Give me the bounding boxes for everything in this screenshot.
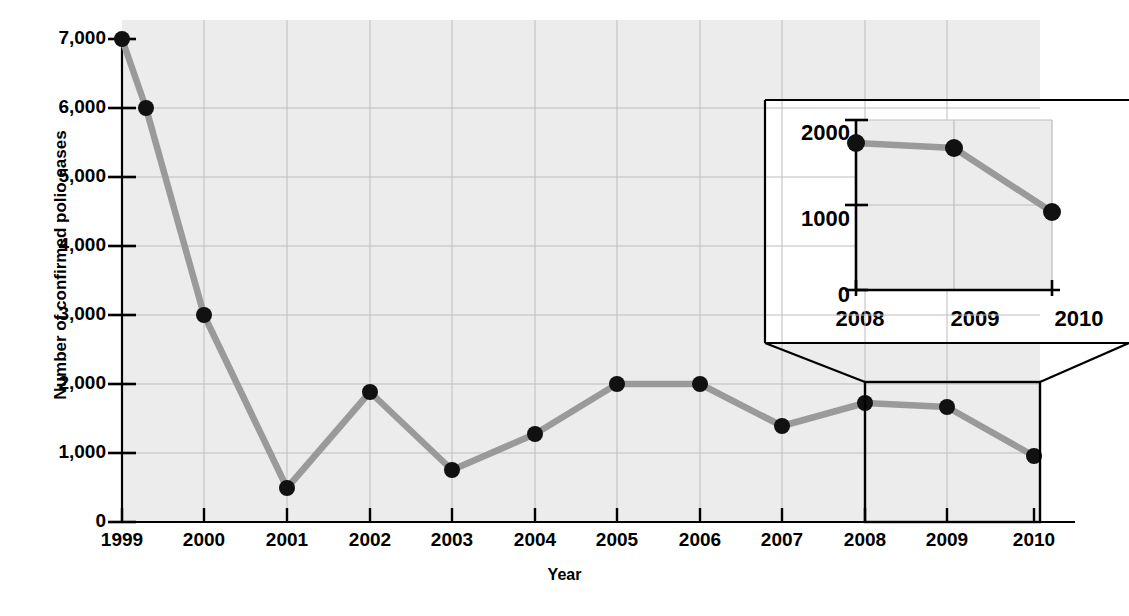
chart-figure: 7,000 6,000 5,000 4,000 3,000 2,000 1,00… (0, 0, 1129, 616)
inset-data-point-2008 (847, 134, 865, 152)
data-point-1999-mid (138, 100, 154, 116)
data-point-2007 (774, 418, 790, 434)
data-point-2001 (279, 480, 295, 496)
data-point-2005 (609, 376, 625, 392)
chart-canvas (0, 0, 1129, 616)
inset-data-point-2010 (1043, 203, 1061, 221)
data-point-2003 (444, 462, 460, 478)
data-point-1999 (114, 31, 130, 47)
data-point-2004 (527, 426, 543, 442)
main-x-ticks (122, 508, 1034, 522)
data-point-2006 (692, 376, 708, 392)
data-point-2002 (362, 384, 378, 400)
data-point-2009 (939, 399, 955, 415)
data-point-2000 (196, 307, 212, 323)
inset-data-point-2009 (945, 139, 963, 157)
